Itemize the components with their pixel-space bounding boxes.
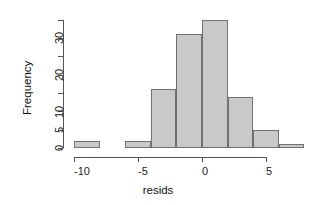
y-axis-tick	[58, 20, 63, 21]
histogram-bar	[279, 144, 305, 148]
x-axis-title: resids	[0, 185, 316, 197]
y-axis-tick-label: 10	[54, 105, 65, 117]
histogram-bar	[228, 97, 254, 148]
x-axis-tick	[138, 157, 139, 162]
y-axis-tick	[58, 93, 63, 94]
histogram-bar	[125, 141, 151, 148]
histogram-bar	[151, 89, 177, 148]
x-axis-tick	[74, 157, 75, 162]
histogram-bar	[253, 130, 279, 148]
y-axis-tick	[58, 56, 63, 57]
y-axis-title: Frequency	[22, 61, 34, 115]
histogram-bar	[202, 20, 228, 148]
y-axis-tick-label: 5	[54, 127, 65, 133]
y-axis-tick-label: 20	[54, 69, 65, 81]
y-axis-tick-label: 30	[54, 32, 65, 44]
x-axis-tick	[266, 157, 267, 162]
x-axis-tick	[202, 157, 203, 162]
y-axis-tick-label: 0	[54, 145, 65, 151]
histogram-plot: 05102030 -10-505 Frequency resids	[0, 0, 316, 205]
histogram-bar	[74, 141, 100, 148]
x-axis-line	[74, 157, 266, 158]
histogram-bar	[176, 34, 202, 148]
